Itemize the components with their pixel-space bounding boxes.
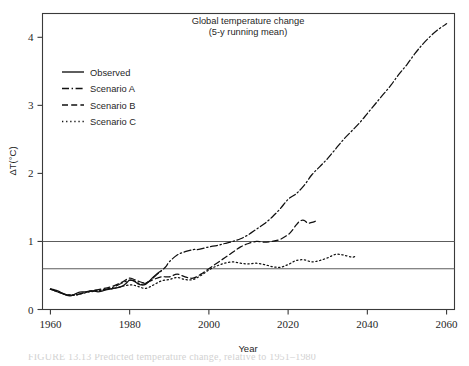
x-axis-ticks: 196019802000202020402060	[39, 310, 458, 330]
x-tick-label-1980: 1980	[119, 318, 142, 330]
x-tick-label-2060: 2060	[436, 318, 459, 330]
chart-title: Global temperature change	[192, 16, 305, 26]
chart-subtitle: (5-y running mean)	[209, 27, 288, 37]
chart-legend: ObservedScenario AScenario BScenario C	[62, 68, 136, 128]
legend-label-observed: Observed	[90, 68, 130, 78]
legend-label-scenario-a: Scenario A	[90, 84, 136, 94]
legend-label-scenario-b: Scenario B	[90, 101, 135, 111]
reference-lines	[43, 241, 455, 268]
plot-frame	[43, 14, 455, 310]
y-tick-label-0: 0	[28, 304, 34, 316]
series-scenario-b	[50, 220, 315, 295]
global-temperature-change-chart: 01234 196019802000202020402060 Global te…	[0, 0, 469, 366]
series-group	[50, 24, 446, 296]
y-tick-label-3: 3	[28, 99, 34, 111]
legend-label-scenario-c: Scenario C	[90, 117, 136, 127]
y-tick-label-2: 2	[28, 167, 34, 179]
y-tick-label-4: 4	[28, 31, 34, 43]
series-scenario-c	[50, 254, 355, 295]
y-tick-label-1: 1	[28, 235, 34, 247]
y-axis-ticks: 01234	[28, 31, 43, 315]
x-axis-label: Year	[238, 343, 257, 354]
series-scenario-a	[50, 24, 446, 296]
x-tick-label-2040: 2040	[356, 318, 379, 330]
figure-caption: FIGURE 13.13 Predicted temperature chang…	[28, 354, 316, 362]
x-tick-label-1960: 1960	[39, 318, 62, 330]
x-tick-label-2020: 2020	[277, 318, 300, 330]
x-tick-label-2000: 2000	[198, 318, 221, 330]
y-axis-label: ΔT(°C)	[7, 146, 18, 175]
figure-container: 01234 196019802000202020402060 Global te…	[0, 0, 469, 366]
figure-caption-strip: FIGURE 13.13 Predicted temperature chang…	[0, 354, 469, 366]
